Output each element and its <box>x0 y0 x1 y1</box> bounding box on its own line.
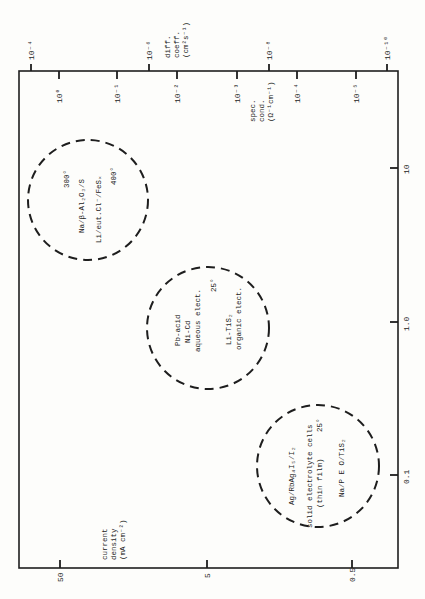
diff-coeff-label: coeff. <box>173 31 181 58</box>
spec-cond-label: cond. <box>258 99 266 122</box>
spec-tick-label: 10⁻⁴ <box>293 84 302 103</box>
diff-tick-label: 10⁻⁶ <box>145 41 154 60</box>
current-density-label: current <box>101 528 109 560</box>
current-density-label: density <box>110 528 118 560</box>
region-label: aqueous elect. <box>194 289 202 352</box>
region-label: Ag/RbAg₄I₅/I₂ <box>288 446 296 505</box>
battery-performance-chart: 10⁻⁴ 10⁻⁶ 10⁻⁸ 10⁻¹⁰ diff. coeff. (cm²s⁻… <box>0 0 425 599</box>
region-label: Na/P E O/TiS₂ <box>338 438 346 497</box>
spec-tick-label: 10⁰ <box>55 89 64 103</box>
spec-cond-label: spec. <box>249 99 257 122</box>
spec-cond-axis: 10⁰ 10⁻¹ 10⁻² 10⁻³ 10⁻⁴ 10⁻⁵ spec. cond.… <box>55 71 361 122</box>
diff-coeff-label: (cm²s⁻¹) <box>182 22 190 58</box>
region-label: solid electrolyte cells <box>306 424 314 528</box>
current-density-label: (mA cm⁻²) <box>119 519 127 560</box>
diff-tick-label: 10⁻⁴ <box>27 41 36 60</box>
diff-coeff-label: diff. <box>164 35 172 58</box>
spec-tick-label: 10⁻¹ <box>113 84 122 103</box>
right-tick-label: 10 <box>402 164 411 174</box>
region-label: Li/eut.Cl⁻/FeSₓ <box>95 175 103 243</box>
region-high-temperature: 300° Na/β-Al₂O₃/S Li/eut.Cl⁻/FeSₓ 400° <box>28 140 148 260</box>
region-label: Ni-Cd <box>184 320 192 343</box>
region-label: 300° <box>63 170 71 188</box>
spec-tick-label: 10⁻² <box>173 84 182 103</box>
region-label: Na/β-Al₂O₃/S <box>78 178 86 233</box>
region-aqueous-organic: Pb-acid Ni-Cd aqueous elect. 25° Li-TiS₂… <box>147 267 269 389</box>
dashed-region-circle <box>147 267 269 389</box>
spec-tick-label: 10⁻³ <box>233 84 242 103</box>
right-axis: 10 1.0 0.1 <box>390 164 411 484</box>
spec-tick-label: 10⁻⁵ <box>352 84 361 103</box>
region-label: Li-TiS₂ <box>225 313 233 345</box>
right-tick-label: 1.0 <box>402 316 411 331</box>
dashed-region-circle <box>28 140 148 260</box>
region-solid-electrolyte: Ag/RbAg₄I₅/I₂ solid electrolyte cells (t… <box>257 405 379 528</box>
diff-coeff-axis: 10⁻⁴ 10⁻⁶ 10⁻⁸ 10⁻¹⁰ diff. coeff. (cm²s⁻… <box>27 22 392 71</box>
diff-tick-label: 10⁻⁸ <box>265 41 274 60</box>
right-tick-label: 0.1 <box>402 469 411 484</box>
region-label: Pb-acid <box>174 314 182 346</box>
bottom-tick-label: 5 <box>203 573 212 578</box>
region-label: (thin film) <box>316 458 324 508</box>
spec-cond-label: (Ω⁻¹cm⁻¹) <box>267 81 275 122</box>
region-label: 25° <box>210 278 218 292</box>
region-label: 25° <box>316 418 324 432</box>
bottom-tick-label: 0.5 <box>348 567 357 582</box>
region-label: 400° <box>110 167 118 185</box>
bottom-tick-label: 50 <box>56 572 65 582</box>
region-label: organic elect. <box>235 287 243 350</box>
diff-tick-label: 10⁻¹⁰ <box>383 36 392 60</box>
